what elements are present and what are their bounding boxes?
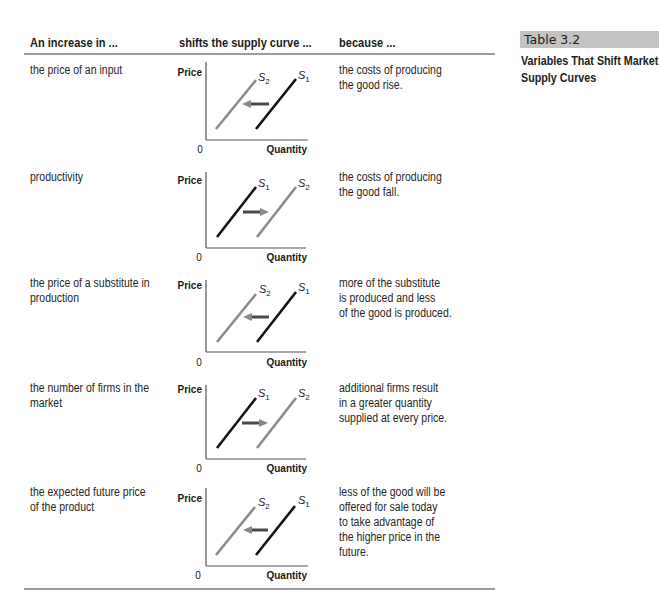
reason-text: the higher price in the <box>339 530 445 545</box>
reason-text: supplied at every price. <box>339 411 447 426</box>
right-curve-label: S2 <box>298 387 310 402</box>
right-curve-label: S1 <box>298 69 310 84</box>
header-rule <box>24 53 495 55</box>
table-row: the number of firms in the market Price … <box>0 385 495 485</box>
left-curve-label: S1 <box>258 177 270 192</box>
variable-cell: the price of a substitute in production <box>30 276 150 306</box>
reason-text: additional firms result <box>339 381 447 396</box>
table-row: the price of an input Price 0 Quantity S… <box>0 62 495 162</box>
variable-cell: the price of an input <box>30 63 122 78</box>
arrow-left-icon <box>243 313 252 321</box>
y-axis-label: Price <box>178 175 203 186</box>
header-reason: because ... <box>339 35 396 50</box>
variable-text: production <box>30 291 150 306</box>
variable-text: the price of an input <box>30 63 122 78</box>
arrow-right-icon <box>260 208 269 216</box>
arrow-right-icon <box>259 419 268 427</box>
origin-label: 0 <box>196 252 202 263</box>
variable-text: of the product <box>30 500 146 515</box>
table-title: Variables That Shift Market Supply Curve… <box>521 53 658 87</box>
left-curve-label: S2 <box>258 71 270 86</box>
reason-text: the costs of producing <box>339 63 442 78</box>
left-curve-label: S1 <box>258 387 270 402</box>
origin-label: 0 <box>196 357 202 368</box>
reason-text: the costs of producing <box>339 170 442 185</box>
left-curve-label: S2 <box>258 496 270 511</box>
variable-cell: productivity <box>30 170 83 185</box>
variable-text: the expected future price <box>30 485 146 500</box>
y-axis-label: Price <box>178 280 203 291</box>
reason-text: offered for sale today <box>339 500 445 515</box>
reason-text: of the good is produced. <box>339 306 452 321</box>
x-axis-label: Quantity <box>266 357 307 368</box>
arrow-left-icon <box>242 100 251 108</box>
reason-cell: the costs of producing the good fall. <box>339 170 442 200</box>
variable-text: the number of firms in the <box>30 381 149 396</box>
y-axis-label: Price <box>178 493 203 504</box>
left-curve-label: S2 <box>259 283 271 298</box>
reason-text: in a greater quantity <box>339 396 447 411</box>
origin-label: 0 <box>195 570 201 581</box>
right-curve-label: S2 <box>298 177 310 192</box>
right-curve-label: S1 <box>298 281 310 296</box>
variable-cell: the number of firms in the market <box>30 381 149 411</box>
table-number-box: Table 3.2 <box>520 31 659 48</box>
supply-shift-graph: Price 0 Quantity S1 S2 <box>175 385 315 481</box>
x-axis-label: Quantity <box>266 570 307 581</box>
x-axis-label: Quantity <box>266 463 307 474</box>
header-shift: shifts the supply curve ... <box>179 35 312 50</box>
variable-cell: the expected future price of the product <box>30 485 146 515</box>
y-axis-label: Price <box>178 384 203 395</box>
table-row: the expected future price of the product… <box>0 488 495 588</box>
x-axis-label: Quantity <box>266 144 307 155</box>
table-number: Table 3.2 <box>524 31 580 48</box>
reason-cell: less of the good will be offered for sal… <box>339 485 445 560</box>
reason-text: more of the substitute <box>339 276 452 291</box>
origin-label: 0 <box>196 463 202 474</box>
variable-text: market <box>30 396 149 411</box>
reason-text: is produced and less <box>339 291 452 306</box>
reason-cell: more of the substitute is produced and l… <box>339 276 452 321</box>
reason-text: future. <box>339 545 445 560</box>
reason-text: the good rise. <box>339 78 442 93</box>
header-variable: An increase in ... <box>30 35 118 50</box>
supply-shift-graph: Price 0 Quantity S2 S1 <box>175 280 315 376</box>
reason-text: to take advantage of <box>339 515 445 530</box>
origin-label: 0 <box>197 144 203 155</box>
y-axis-label: Price <box>178 67 203 78</box>
reason-cell: additional firms result in a greater qua… <box>339 381 447 426</box>
reason-text: less of the good will be <box>339 485 445 500</box>
reason-text: the good fall. <box>339 185 442 200</box>
arrow-left-icon <box>243 526 252 534</box>
right-curve-label: S1 <box>298 494 310 509</box>
reason-cell: the costs of producing the good rise. <box>339 63 442 93</box>
variable-text: productivity <box>30 170 83 185</box>
table-title-line: Variables That Shift Market <box>521 53 658 70</box>
table-row: the price of a substitute in production … <box>0 280 495 380</box>
variable-text: the price of a substitute in <box>30 276 150 291</box>
bottom-rule <box>24 588 495 590</box>
supply-shift-graph: Price 0 Quantity S2 S1 <box>175 62 315 158</box>
x-axis-label: Quantity <box>266 252 307 263</box>
table-row: productivity Price 0 Quantity S1 S2 the … <box>0 172 495 272</box>
table-title-line: Supply Curves <box>521 70 658 87</box>
supply-shift-graph: Price 0 Quantity S2 S1 <box>175 488 315 584</box>
supply-shift-graph: Price 0 Quantity S1 S2 <box>175 172 315 268</box>
